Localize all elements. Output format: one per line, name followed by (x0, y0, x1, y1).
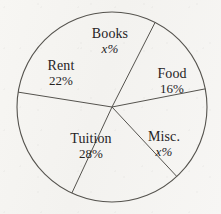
slice-label-books: Books x% (79, 26, 141, 56)
slice-label-misc-value: x% (135, 145, 193, 160)
slice-label-rent-value: 22% (31, 74, 91, 89)
slice-label-rent: Rent 22% (31, 58, 91, 88)
slice-label-misc-name: Misc. (135, 129, 193, 145)
slice-label-books-value: x% (79, 42, 141, 57)
slice-divider-rent (18, 92, 112, 107)
slice-label-rent-name: Rent (31, 58, 91, 74)
slice-label-food: Food 16% (143, 66, 201, 96)
pie-chart: Books x% Food 16% Misc. x% Tuition 28% R… (0, 0, 221, 214)
slice-label-tuition: Tuition 28% (56, 131, 126, 161)
slice-label-tuition-value: 28% (56, 147, 126, 162)
slice-label-food-name: Food (143, 66, 201, 82)
slice-label-misc: Misc. x% (135, 129, 193, 159)
slice-label-books-name: Books (79, 26, 141, 42)
slice-label-tuition-name: Tuition (56, 131, 126, 147)
slice-label-food-value: 16% (143, 82, 201, 97)
